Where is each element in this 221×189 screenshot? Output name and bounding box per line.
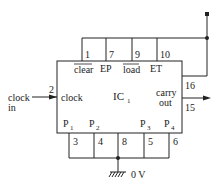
pin-number-2: 2 — [49, 84, 54, 95]
pin-label-p3-sub: 3 — [147, 124, 151, 132]
pin-number-4: 4 — [98, 136, 103, 147]
pin-number-15: 15 — [185, 102, 195, 113]
pin-number-16: 16 — [185, 80, 195, 91]
pin-label-et: ET — [150, 63, 162, 74]
counter-circuit-diagram: 1 7 9 10 clear EP load ET 2 clock clock … — [0, 0, 221, 189]
pin-number-5: 5 — [148, 136, 153, 147]
pin-number-7: 7 — [109, 49, 114, 60]
supply-terminal-dot — [205, 12, 209, 16]
clock-in-label-line2: in — [8, 102, 16, 113]
pin-label-ep: EP — [100, 63, 112, 74]
pin-label-clock: clock — [61, 92, 83, 103]
pin-label-clear: clear — [74, 64, 94, 75]
junction-dot-top — [205, 36, 209, 40]
pin-number-9: 9 — [135, 49, 140, 60]
pin-number-3: 3 — [73, 136, 78, 147]
pin-label-p3: P — [140, 118, 146, 129]
pin-label-p1-sub: 1 — [70, 124, 74, 132]
pin-label-load: load — [123, 64, 140, 75]
ic-subscript: 1 — [127, 97, 131, 105]
ground-label: 0 V — [131, 169, 146, 180]
pin-number-1: 1 — [85, 49, 90, 60]
pin-label-p4-sub: 4 — [171, 124, 175, 132]
ground-icon — [109, 172, 126, 177]
pin-label-p1: P — [63, 118, 69, 129]
pin-number-10: 10 — [160, 49, 170, 60]
pin-label-p2-sub: 2 — [96, 124, 100, 132]
carry-out-arrow-icon — [203, 96, 211, 101]
pin-label-out: out — [159, 97, 172, 108]
junction-dot-bottom — [116, 156, 120, 160]
clock-in-arrow-icon — [49, 95, 57, 100]
pin-number-6: 6 — [173, 136, 178, 147]
pin-number-8: 8 — [122, 136, 127, 147]
pin-label-p2: P — [89, 118, 95, 129]
pin-label-p4: P — [164, 118, 170, 129]
ic-label: IC — [113, 90, 124, 102]
